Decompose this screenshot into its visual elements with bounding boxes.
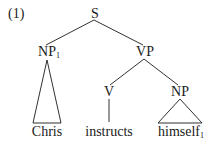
leaf-himself-word: himself — [158, 124, 200, 139]
triangle-np-subject — [33, 60, 61, 123]
branch-vp-v — [110, 59, 144, 85]
node-vp: VP — [136, 45, 154, 59]
branch-vp-np — [144, 59, 178, 85]
leaf-chris: Chris — [32, 125, 62, 139]
leaf-himself: himself1 — [158, 125, 204, 139]
branch-s-vp — [94, 20, 143, 45]
triangle-np-object — [158, 99, 202, 123]
branch-s-np — [46, 20, 94, 45]
node-vp-label: VP — [136, 44, 154, 59]
leaf-himself-index: 1 — [200, 131, 204, 140]
tree-branches — [0, 0, 215, 144]
node-np-subject-label: NP — [38, 44, 56, 59]
example-number: (1) — [8, 7, 24, 21]
node-s-label: S — [91, 6, 99, 21]
node-s: S — [91, 7, 99, 21]
node-v: V — [104, 85, 114, 99]
node-np-object-label: NP — [171, 84, 189, 99]
leaf-instructs: instructs — [85, 125, 132, 139]
node-np-subject-index: 1 — [56, 51, 60, 60]
node-v-label: V — [104, 84, 114, 99]
leaf-instructs-word: instructs — [85, 124, 132, 139]
node-np-object: NP — [171, 85, 189, 99]
node-np-subject: NP1 — [38, 45, 60, 59]
leaf-chris-word: Chris — [32, 124, 62, 139]
